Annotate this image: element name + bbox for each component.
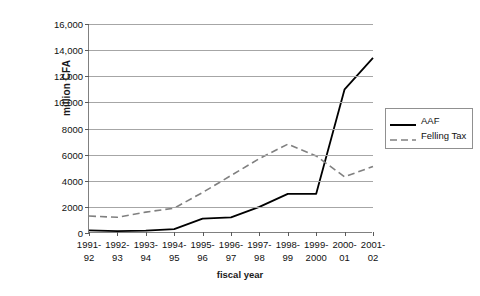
gridline [89, 181, 373, 182]
y-axis-tick-label: 8000 [62, 123, 83, 134]
x-axis-tick [89, 232, 90, 236]
x-axis-tick [231, 232, 232, 236]
y-axis-tick [85, 207, 89, 208]
y-axis-tick [85, 76, 89, 77]
x-axis-tick-label-line: 02 [353, 252, 393, 265]
gridline [89, 76, 373, 77]
x-axis-tick [316, 232, 317, 236]
y-axis-tick-label: 0 [78, 228, 83, 239]
chart-figure: million CFA 0200040006000800010,00012,00… [0, 0, 480, 296]
y-axis-tick-label: 16,000 [54, 19, 83, 30]
legend-label: AAF [421, 115, 439, 126]
x-axis-tick [259, 232, 260, 236]
x-axis-tick [146, 232, 147, 236]
series-line [89, 58, 373, 231]
y-axis-tick [85, 155, 89, 156]
x-axis-tick [203, 232, 204, 236]
x-axis-tick [174, 232, 175, 236]
y-axis-tick-label: 6000 [62, 149, 83, 160]
x-axis-tick [117, 232, 118, 236]
y-axis-tick-label: 4000 [62, 175, 83, 186]
x-axis-title: fiscal year [150, 269, 330, 280]
x-axis-tick-label-line: 2001- [353, 239, 393, 252]
legend-label: Felling Tax [421, 130, 466, 141]
plot-area: 0200040006000800010,00012,00014,00016,00… [88, 24, 372, 233]
y-axis-tick [85, 129, 89, 130]
legend-item[interactable]: AAF [390, 113, 466, 128]
y-axis-tick [85, 102, 89, 103]
y-axis-tick-label: 14,000 [54, 45, 83, 56]
x-axis-tick [373, 232, 374, 236]
chart-legend: AAFFelling Tax [385, 108, 473, 149]
y-axis-tick-label: 2000 [62, 201, 83, 212]
y-axis-tick [85, 24, 89, 25]
legend-swatch [390, 116, 416, 126]
y-axis-tick [85, 50, 89, 51]
gridline [89, 102, 373, 103]
gridline [89, 207, 373, 208]
gridline [89, 24, 373, 25]
y-axis-tick-label: 10,000 [54, 97, 83, 108]
x-axis-tick [345, 232, 346, 236]
legend-swatch [390, 131, 416, 141]
legend-item[interactable]: Felling Tax [390, 128, 466, 143]
gridline [89, 155, 373, 156]
y-axis-tick-label: 12,000 [54, 71, 83, 82]
gridline [89, 50, 373, 51]
x-axis-tick [288, 232, 289, 236]
x-axis-tick-label: 2001-02 [353, 239, 393, 264]
gridline [89, 129, 373, 130]
y-axis-tick [85, 181, 89, 182]
